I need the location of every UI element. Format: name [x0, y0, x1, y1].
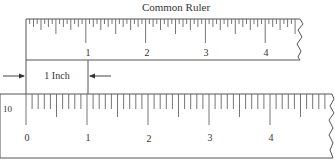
bottom-label-1: 1: [86, 132, 91, 143]
bottom-label-0: 0: [25, 132, 30, 143]
diagram-title: Common Ruler: [142, 1, 210, 13]
bottom-ruler-ticks: [26, 94, 325, 125]
top-label-2: 2: [145, 47, 150, 58]
top-label-1: 1: [86, 47, 91, 58]
top-ruler-labels: 1 2 3 4: [86, 47, 269, 58]
top-label-4: 4: [264, 47, 269, 58]
bottom-ruler: 10 0 1 2 3 4: [0, 94, 334, 158]
one-inch-measurement: 1 Inch: [3, 60, 111, 94]
ruler-diagram: Common Ruler 1 2 3 4 1 Inch 10 0 1 2 3 4: [0, 0, 335, 163]
bottom-label-3: 3: [208, 132, 213, 143]
top-ruler: 1 2 3 4: [26, 19, 303, 60]
top-ruler-outline: [26, 19, 303, 60]
top-label-3: 3: [204, 47, 209, 58]
scale-label: 10: [3, 104, 13, 114]
arrow-left-head-icon: [89, 74, 95, 79]
bottom-ruler-labels: 0 1 2 3 4: [25, 132, 274, 144]
top-ruler-ticks: [30, 19, 295, 43]
bottom-label-4: 4: [269, 132, 274, 143]
arrow-right-head-icon: [19, 74, 25, 79]
measurement-label: 1 Inch: [44, 70, 69, 81]
bottom-label-2: 2: [147, 133, 152, 144]
